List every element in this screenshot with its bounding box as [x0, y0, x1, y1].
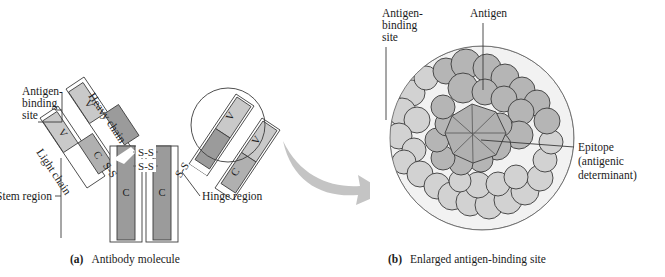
epitope-label-line3: determinant): [578, 169, 637, 182]
binding-sphere: [504, 165, 528, 189]
panel-b-enlarged-binding-site: Antigen- binding site Antigen Epitope (a…: [370, 7, 637, 266]
caption-b-marker: (b): [388, 253, 402, 266]
antigen-label: Antigen: [470, 7, 507, 20]
caption-a-text: Antibody molecule: [91, 253, 179, 266]
stem-right-c-label: C: [158, 187, 165, 198]
caption-a-marker: (a): [70, 253, 84, 266]
antibody-figure: V V C V V: [0, 0, 665, 277]
antigen-sphere: [534, 108, 560, 134]
stem-region-label: Stem region: [0, 190, 52, 203]
abs-label-a-line3: site: [22, 109, 38, 121]
caption-a: (a) Antibody molecule: [70, 249, 180, 266]
caption-b-text: Enlarged antigen-binding site: [410, 253, 546, 266]
ss-center-label-2: S-S: [138, 160, 154, 172]
stem-left-c-label: C: [122, 187, 129, 198]
epitope-label-line2: (antigenic: [578, 155, 624, 168]
antigen-sphere: [431, 95, 455, 119]
ss-center-label-1: S-S: [138, 146, 154, 158]
epitope-label-line1: Epitope: [578, 141, 614, 154]
abs-label-b-line3: site: [382, 31, 398, 43]
figure-canvas: V V C V V: [0, 0, 665, 277]
svg-text:(a) Antibody molecul: (a) Antibody molecule: [70, 249, 180, 266]
panel-a-antibody-molecule: V V C V V: [0, 77, 280, 266]
hinge-region-label: Hinge region: [202, 190, 263, 203]
